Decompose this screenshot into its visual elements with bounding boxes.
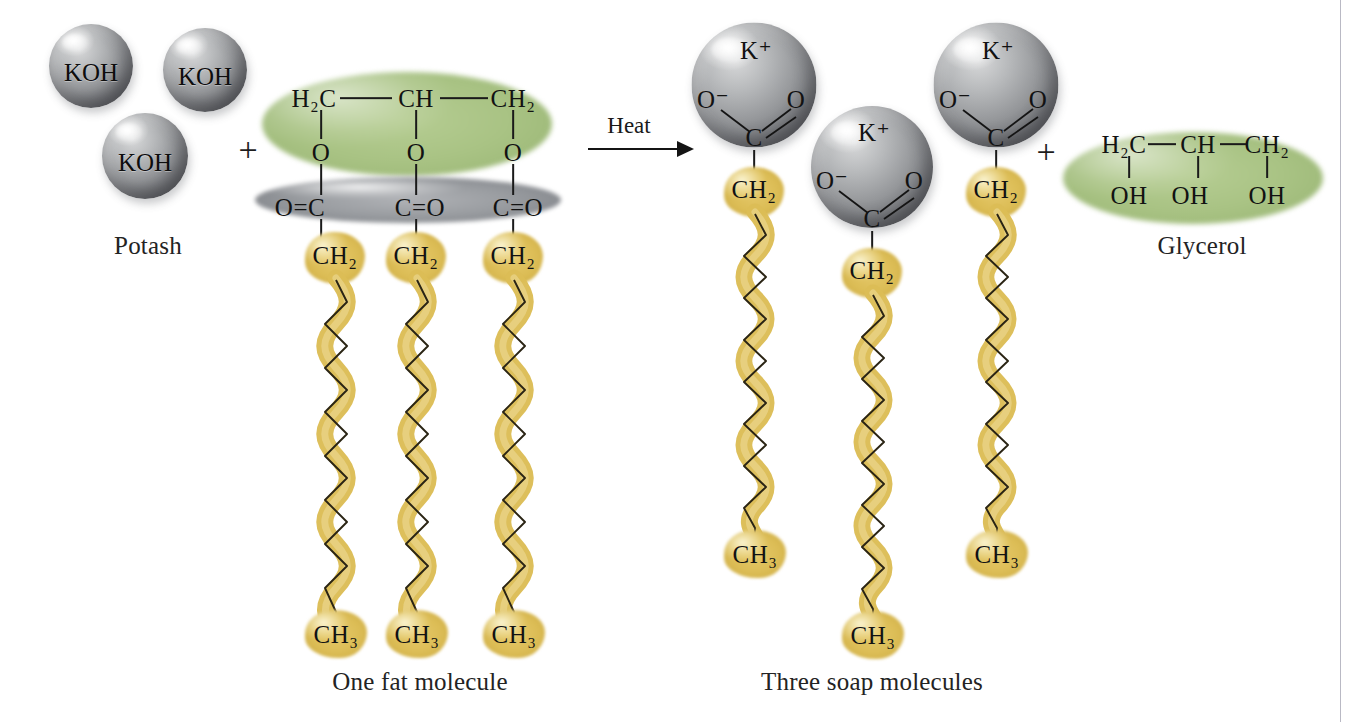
glycerol-hydroxyl-1: OH xyxy=(1110,183,1147,208)
soap-2-chain-head-label: CH₂ xyxy=(850,258,895,283)
heat-label: Heat xyxy=(607,114,650,137)
soap-2-tail-label: CH₃ xyxy=(851,623,896,648)
fat-carbonyl-1: O=C xyxy=(275,195,325,220)
fat-backbone-c3: CH₂ xyxy=(491,86,536,111)
fat-backbone-c1: H₂C xyxy=(292,86,337,111)
glycerol-backbone-c3: CH₂ xyxy=(1245,132,1290,157)
fat-chain-2-tail xyxy=(394,278,440,638)
fat-bond-c2-o2 xyxy=(415,110,417,139)
glycerol-bond-c3-oh xyxy=(1266,156,1268,178)
fat-ester-o-2: O xyxy=(407,140,426,165)
saponification-diagram: KOH KOH KOH Potash + H₂C CH CH₂ O O O xyxy=(0,0,1370,722)
fat-backbone-bond-2 xyxy=(440,97,488,99)
fat-chain-2-tail-label: CH₃ xyxy=(395,622,440,647)
glycerol-hydroxyl-2: OH xyxy=(1171,183,1208,208)
fat-bond-o2-c2 xyxy=(415,164,417,195)
glycerol-backbone-c1: H₂C xyxy=(1102,132,1147,157)
soap-caption: Three soap molecules xyxy=(761,669,983,694)
soap-1-cation-label: K⁺ xyxy=(740,38,772,63)
glycerol-caption: Glycerol xyxy=(1157,233,1246,258)
fat-ester-o-3: O xyxy=(504,140,523,165)
glycerol-backbone-c2: CH xyxy=(1180,132,1216,157)
soap-3-tail-label: CH₃ xyxy=(975,542,1020,567)
page-edge-rule xyxy=(1340,0,1341,722)
glycerol-backbone-bond-1 xyxy=(1148,143,1176,145)
fat-carbonyl-3: C=O xyxy=(493,195,543,220)
soap-2-cation-label: K⁺ xyxy=(858,120,890,145)
fat-ester-o-1: O xyxy=(312,140,331,165)
soap-1-head-bonds xyxy=(700,90,820,150)
soap-2-tail xyxy=(850,293,896,623)
potash-caption: Potash xyxy=(114,233,182,258)
fat-backbone-bond-1 xyxy=(340,97,392,99)
fat-bond-o3-c3 xyxy=(512,164,514,195)
fat-chain-1-head-label: CH₂ xyxy=(313,243,358,268)
fat-bond-c1-o1 xyxy=(320,110,322,139)
glycerol-backbone-bond-2 xyxy=(1220,143,1246,145)
soap-1-tail xyxy=(732,212,778,542)
glycerol-hydroxyl-3: OH xyxy=(1248,183,1285,208)
soap-2-head-bonds xyxy=(818,171,938,231)
soap-1-tail-label: CH₃ xyxy=(733,542,778,567)
fat-chain-1-tail-label: CH₃ xyxy=(314,622,359,647)
soap-3-tail xyxy=(974,212,1020,542)
fat-chain-1-tail xyxy=(313,278,359,638)
fat-bond-c3-o3 xyxy=(512,110,514,139)
reactant-plus-sign: + xyxy=(238,133,257,167)
glycerol-bond-c1-oh xyxy=(1128,156,1130,178)
reaction-arrow-shaft xyxy=(588,148,680,150)
fat-carbonyl-2: C=O xyxy=(395,195,445,220)
soap-1-chain-head-label: CH₂ xyxy=(732,177,777,202)
fat-bond-o1-c1 xyxy=(320,164,322,195)
fat-chain-2-head-label: CH₂ xyxy=(394,243,439,268)
product-plus-sign: + xyxy=(1036,135,1055,169)
fat-chain-3-tail-label: CH₃ xyxy=(492,622,537,647)
koh-sphere-1-label: KOH xyxy=(64,60,118,85)
soap-3-cation-label: K⁺ xyxy=(982,38,1014,63)
koh-sphere-2-label: KOH xyxy=(178,64,232,89)
fat-backbone-c2: CH xyxy=(398,86,434,111)
fat-chain-3-head-label: CH₂ xyxy=(491,243,536,268)
fat-chain-3-tail xyxy=(491,278,537,638)
glycerol-bond-c2-oh xyxy=(1197,156,1199,178)
soap-3-chain-head-label: CH₂ xyxy=(974,177,1019,202)
reaction-arrow-head xyxy=(677,141,694,157)
koh-sphere-3-label: KOH xyxy=(118,150,172,175)
fat-caption: One fat molecule xyxy=(332,669,507,694)
